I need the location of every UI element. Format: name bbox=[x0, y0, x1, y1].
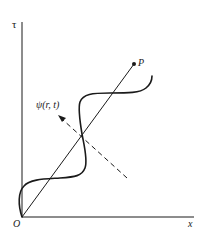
spacetime-diagram: τ x O P ψ(r, t) bbox=[0, 0, 207, 241]
worldline-o-to-p bbox=[22, 64, 134, 217]
wave-curve bbox=[19, 76, 152, 217]
tau-axis-label: τ bbox=[12, 18, 17, 30]
origin-label: O bbox=[13, 218, 20, 229]
wave-function-label: ψ(r, t) bbox=[36, 99, 60, 111]
x-axis-label: x bbox=[187, 218, 193, 229]
point-p-label: P bbox=[137, 57, 144, 68]
point-p-marker bbox=[132, 62, 136, 66]
arrow-head-icon bbox=[58, 115, 66, 122]
